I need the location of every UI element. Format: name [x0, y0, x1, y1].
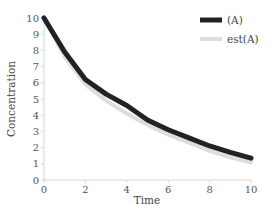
y-tick-label: 10: [26, 13, 39, 24]
line-chart: 0246810012345678910 (A)est(A) Time Conce…: [0, 0, 268, 217]
y-tick-label: 7: [33, 61, 39, 72]
x-tick-label: 8: [206, 184, 212, 195]
y-tick-label: 8: [33, 45, 39, 56]
x-tick-label: 2: [82, 184, 88, 195]
axis-ticks: 0246810012345678910: [26, 13, 257, 196]
y-tick-label: 6: [33, 77, 39, 88]
y-tick-label: 0: [33, 175, 39, 186]
x-axis-label: Time: [134, 194, 161, 206]
y-axis-label: Concentration: [5, 61, 17, 137]
y-tick-label: 9: [33, 29, 39, 40]
y-tick-label: 1: [33, 158, 39, 169]
x-tick-label: 6: [165, 184, 171, 195]
y-tick-label: 5: [33, 94, 39, 105]
legend-label: (A): [227, 14, 243, 26]
y-tick-label: 4: [33, 110, 39, 121]
y-tick-label: 2: [33, 142, 39, 153]
x-tick-label: 10: [245, 184, 258, 195]
legend: (A)est(A): [200, 14, 259, 45]
x-tick-label: 0: [41, 184, 47, 195]
legend-label: est(A): [227, 33, 259, 45]
y-tick-label: 3: [33, 126, 39, 137]
x-tick-label: 4: [124, 184, 130, 195]
